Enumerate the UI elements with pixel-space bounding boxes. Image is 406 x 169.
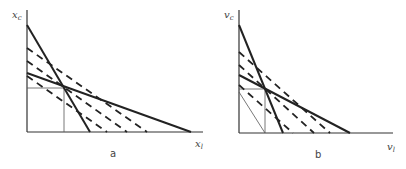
dashed-line-2: [27, 61, 127, 132]
y-axis-label: xc: [12, 9, 22, 22]
shallow-solid-line: [239, 75, 350, 133]
panel-caption: b: [315, 149, 321, 160]
y-axis-label: vc: [224, 9, 234, 22]
thin-diagonal-line: [239, 92, 265, 133]
dashed-line-3: [27, 76, 107, 132]
x-axis-label: xl: [195, 138, 203, 151]
dashed-line-2: [239, 65, 314, 133]
panel-b: vc vl b: [224, 9, 395, 160]
dashed-line-1: [239, 52, 330, 133]
panel-caption: a: [110, 148, 116, 159]
figure: xc xl a vc vl b: [0, 0, 406, 169]
dashed-line-1: [27, 48, 147, 132]
panel-a: xc xl a: [12, 9, 203, 159]
shallow-solid-line: [27, 73, 191, 132]
steep-solid-line: [27, 25, 90, 132]
x-axis-label: vl: [387, 141, 395, 154]
